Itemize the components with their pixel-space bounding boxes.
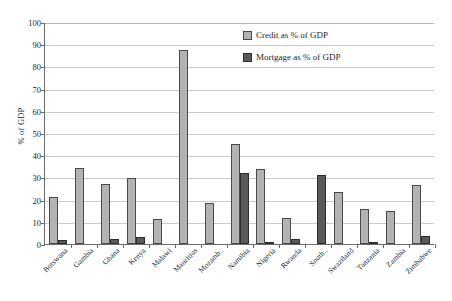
bar [49,197,58,244]
x-tick-label: Swaziland [326,246,355,275]
bar [256,169,265,244]
y-tick-label: 30 [1,174,41,183]
bar [334,192,343,244]
bar-group [45,23,71,244]
bar-group [71,23,97,244]
bar-group [149,23,175,244]
y-tick-label: 0 [1,241,41,250]
x-tick-label: Nigeria [254,246,277,269]
x-tick-label: Zambia [384,246,407,269]
bar [265,242,274,244]
y-tick-label: 100 [1,19,41,28]
x-tick-label: South.. [307,246,329,268]
bar [231,144,240,244]
y-tick-label: 80 [1,63,41,72]
bar-group [201,23,227,244]
x-tick-label: Kenya [126,246,147,267]
x-tick-label: Tanzania [355,246,381,272]
x-tick-label: Botswana [41,246,69,274]
y-tick-label: 70 [1,85,41,94]
x-tick-label: Ghana [100,246,121,267]
bar [240,173,249,244]
x-tick-label: Zimbabwe [403,246,433,276]
x-axis-labels: BotswanaGambiaGhanaKenyaMalawiMauritiusM… [44,246,434,301]
x-tick-label: Mauritius [171,246,199,274]
legend-item-credit: Credit as % of GDP [243,24,429,46]
bar [127,178,136,244]
bar [101,184,110,244]
x-tick-label: Gambia [71,246,95,270]
chart-legend: Credit as % of GDP Mortgage as % of GDP [243,24,429,68]
x-tick-label: Malawi [150,246,173,269]
legend-label-mortgage: Mortgage as % of GDP [256,52,341,62]
bar-group [175,23,201,244]
bar [412,185,421,244]
bar [360,209,369,244]
bar [291,239,300,244]
bar [136,237,145,244]
legend-swatch-mortgage-icon [243,53,252,62]
bar-chart: % of GDP 0102030405060708090100 Botswana… [0,0,452,301]
bar [205,203,214,244]
x-tick-label: Mozamb.. [196,246,225,275]
y-tick-label: 40 [1,152,41,161]
bar-group [97,23,123,244]
y-tick-label: 10 [1,219,41,228]
y-tick-label: 90 [1,41,41,50]
bar [386,211,395,244]
bar [153,219,162,244]
y-tick-label: 20 [1,196,41,205]
bar [369,242,378,244]
legend-swatch-credit-icon [243,31,252,40]
bar [110,239,119,244]
x-tick-label: Rwanda [279,246,303,270]
bar [421,236,430,244]
x-tick-mark [435,244,436,248]
bar [58,240,67,244]
y-tick-label: 60 [1,108,41,117]
x-tick-label: Namibia [226,246,251,271]
bar [75,168,84,244]
bar-group [123,23,149,244]
legend-item-mortgage: Mortgage as % of GDP [243,46,429,68]
y-tick-label: 50 [1,130,41,139]
legend-label-credit: Credit as % of GDP [256,30,328,40]
bar [282,218,291,244]
bar [179,50,188,244]
bar [317,175,326,244]
